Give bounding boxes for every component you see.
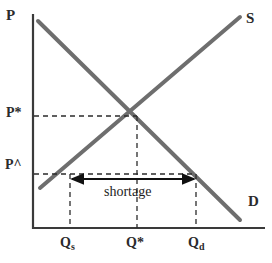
supply-curve [40, 17, 240, 188]
supply-curve-label: S [246, 11, 254, 26]
quantity-tick-base-qs: Q [60, 235, 71, 250]
quantity-tick-label-supplied: Qs [60, 236, 75, 250]
demand-curve-label: D [248, 194, 259, 209]
quantity-tick-sub-qd: d [199, 241, 205, 252]
quantity-tick-sub-qs: s [71, 241, 75, 252]
shortage-annotation-label: shortage [104, 185, 151, 199]
diagram-svg [0, 0, 272, 263]
quantity-tick-label-equilibrium: Q* [126, 236, 144, 250]
price-tick-label-equilibrium: P* [6, 106, 22, 120]
y-axis-title: P [6, 8, 15, 23]
quantity-tick-label-demanded: Qd [188, 236, 204, 250]
quantity-tick-base-qstar: Q* [126, 235, 144, 250]
quantity-tick-base-qd: Q [188, 235, 199, 250]
price-tick-label-ceiling: P^ [5, 158, 22, 172]
supply-demand-diagram: P S D P* P^ Qs Q* Qd shortage [0, 0, 272, 263]
